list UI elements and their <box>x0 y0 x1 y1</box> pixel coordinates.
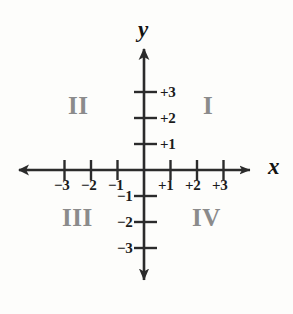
x-axis <box>18 165 250 176</box>
y-tick-label-neg1: −1 <box>117 189 132 204</box>
quadrant-label-iv: IV <box>192 205 221 230</box>
quadrant-label-i: I <box>203 93 213 118</box>
y-axis-ticks <box>134 92 157 248</box>
y-tick-label-pos2: +2 <box>160 111 175 126</box>
y-axis-label: y <box>138 18 148 41</box>
coordinate-plane-figure: −3 −2 −1 +1 +2 +3 +3 +2 +1 −1 −2 −3 I II… <box>0 0 293 314</box>
x-tick-label-pos1: +1 <box>158 178 173 193</box>
x-axis-left-arrowhead <box>18 165 29 176</box>
y-tick-label-neg2: −2 <box>117 215 132 230</box>
x-tick-label-neg2: −2 <box>81 178 96 193</box>
x-axis-label: x <box>268 155 280 178</box>
x-tick-label-pos2: +2 <box>185 178 200 193</box>
y-tick-label-pos1: +1 <box>160 137 175 152</box>
quadrant-label-iii: III <box>62 205 93 230</box>
quadrant-label-ii: II <box>68 93 88 118</box>
y-axis-top-arrowhead <box>139 48 150 60</box>
y-tick-label-neg3: −3 <box>117 241 132 256</box>
x-tick-label-pos3: +3 <box>212 178 227 193</box>
axes-svg <box>0 0 293 314</box>
x-tick-label-neg3: −3 <box>54 178 69 193</box>
y-tick-label-pos3: +3 <box>160 85 175 100</box>
y-axis <box>139 48 150 280</box>
